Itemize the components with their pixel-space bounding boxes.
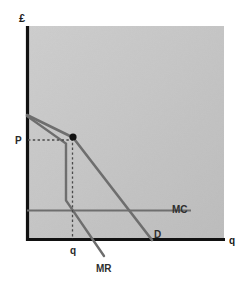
diagram-canvas: £ q P q MC D MR: [0, 0, 247, 289]
marginal-cost-label: MC: [172, 204, 188, 215]
kinked-demand-curve-figure: £ q P q MC D MR: [0, 0, 247, 289]
quantity-tick-label: q: [70, 245, 76, 256]
marginal-revenue-label: MR: [96, 263, 112, 274]
y-axis-label: £: [19, 12, 25, 24]
plot-area-texture: [26, 26, 224, 240]
kink-point-marker: [69, 133, 76, 140]
x-axis-label: q: [229, 235, 235, 246]
price-tick-label: P: [15, 135, 22, 146]
demand-label: D: [154, 229, 161, 240]
